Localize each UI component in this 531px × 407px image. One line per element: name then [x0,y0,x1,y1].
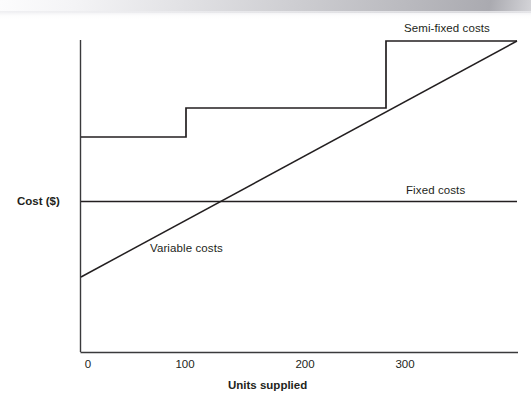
series-semi-fixed-costs [81,41,517,137]
x-tick-label-100: 100 [165,358,205,371]
x-tick-label-300: 300 [385,358,425,371]
plot-area [0,0,531,407]
annotation-semi-fixed-costs: Semi-fixed costs [404,22,490,35]
cost-behaviour-chart: Semi-fixed costs Fixed costs Variable co… [0,0,531,407]
x-axis-title: Units supplied [228,379,307,392]
annotation-fixed-costs: Fixed costs [406,184,465,197]
annotation-variable-costs: Variable costs [150,242,223,255]
x-tick-label-200: 200 [285,358,325,371]
y-axis-title: Cost ($) [17,195,60,208]
x-tick-label-0: 0 [68,358,108,371]
series-variable-costs [81,41,517,277]
